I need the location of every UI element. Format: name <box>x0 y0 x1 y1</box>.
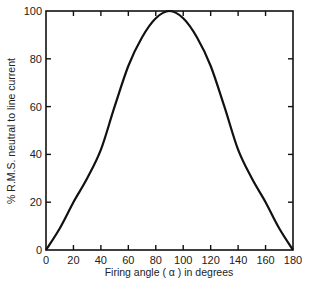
y-tick-label: 100 <box>24 5 42 17</box>
x-axis-title: Firing angle ( α ) in degrees <box>105 266 234 278</box>
x-tick-label: 40 <box>95 254 107 266</box>
plot-border <box>46 11 293 250</box>
line-chart: 020406080100120140160180 020406080100 Fi… <box>0 0 309 288</box>
y-tick-label: 80 <box>30 53 42 65</box>
axis-ticks <box>46 11 293 250</box>
x-tick-label: 80 <box>150 254 162 266</box>
x-tick-label: 120 <box>201 254 219 266</box>
plot-frame <box>46 11 293 250</box>
x-tick-label: 180 <box>284 254 302 266</box>
x-tick-label: 160 <box>256 254 274 266</box>
y-tick-label: 60 <box>30 101 42 113</box>
x-tick-label: 140 <box>229 254 247 266</box>
y-axis-title: % R.M.S. neutral to line current <box>5 58 17 204</box>
x-tick-labels: 020406080100120140160180 <box>43 254 302 266</box>
y-tick-label: 0 <box>36 244 42 256</box>
data-curve <box>46 11 293 250</box>
y-tick-label: 40 <box>30 148 42 160</box>
x-tick-label: 0 <box>43 254 49 266</box>
y-tick-label: 20 <box>30 196 42 208</box>
x-tick-label: 20 <box>67 254 79 266</box>
y-tick-labels: 020406080100 <box>24 5 42 256</box>
x-tick-label: 100 <box>174 254 192 266</box>
x-tick-label: 60 <box>122 254 134 266</box>
